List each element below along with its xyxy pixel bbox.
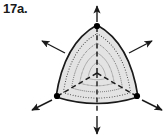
top-vertex-dot — [94, 23, 100, 29]
figure-container: 17a. — [0, 0, 163, 140]
bottom-left-vertex-dot — [54, 93, 60, 99]
reuleaux-triangle-diagram — [0, 0, 163, 140]
bottom-right-vertex-dot — [134, 93, 140, 99]
axis-upper-right-arrow — [129, 41, 152, 53]
axis-upper-left-arrow — [42, 41, 65, 53]
axis-lower-left-arrow — [32, 100, 52, 110]
axis-lower-right-arrow — [142, 100, 162, 110]
